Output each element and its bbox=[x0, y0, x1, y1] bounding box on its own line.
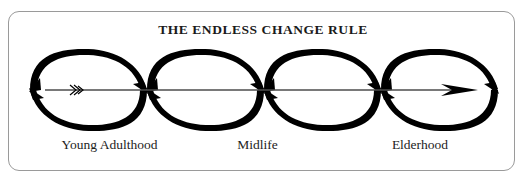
stage-label-young-adulthood: Young Adulthood bbox=[27, 137, 192, 153]
lens-3-upper-arc bbox=[264, 49, 381, 90]
lens-4-upper-arc bbox=[381, 49, 498, 90]
stage-label-midlife: Midlife bbox=[210, 137, 305, 153]
lens-3-lower-arc bbox=[264, 90, 381, 131]
lens-4-lower-arc bbox=[381, 90, 498, 131]
lens-1-upper-arc bbox=[30, 49, 147, 90]
lens-1-lower-arc bbox=[30, 90, 147, 131]
lens-2-lower-arc bbox=[147, 90, 264, 131]
endless-change-diagram bbox=[0, 0, 526, 181]
endless-change-rule-figure: THE ENDLESS CHANGE RULE bbox=[0, 0, 526, 181]
stage-label-elderhood: Elderhood bbox=[350, 137, 490, 153]
lens-2-upper-arc bbox=[147, 49, 264, 90]
